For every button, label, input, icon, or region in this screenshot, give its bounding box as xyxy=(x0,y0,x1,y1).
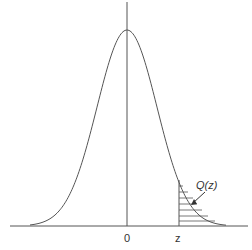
shaded-tail-hatch xyxy=(179,186,215,221)
tail-area-label: Q(z) xyxy=(196,179,218,191)
normal-distribution-chart: 0 z Q(z) xyxy=(0,0,252,250)
density-curve xyxy=(30,30,226,225)
tick-label-z: z xyxy=(175,232,181,244)
tick-label-zero: 0 xyxy=(124,232,130,244)
